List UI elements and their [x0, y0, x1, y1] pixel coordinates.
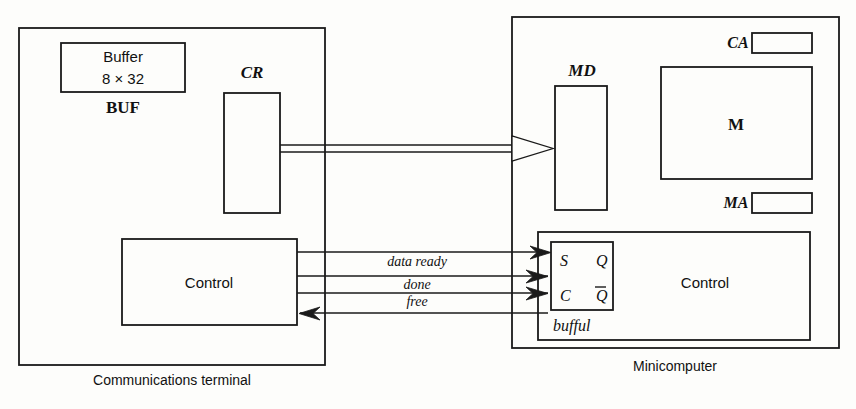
flipflop-terminal-q: Q: [596, 252, 608, 269]
signal-label-free: free: [406, 294, 427, 309]
cr-register-box: [224, 93, 280, 213]
signal-label-done: done: [403, 277, 430, 292]
block-diagram: Buffer 8 × 32 BUF CR Control CA MD M MA …: [0, 0, 856, 409]
ma-register-box: [752, 193, 812, 213]
minicomputer-control-label: Control: [681, 274, 729, 291]
diagram-canvas: Buffer 8 × 32 BUF CR Control CA MD M MA …: [0, 0, 856, 409]
caption-minicomputer: Minicomputer: [633, 358, 717, 374]
buffer-label-line1: Buffer: [103, 48, 143, 65]
data-bus-arrowhead: [512, 136, 553, 161]
flipflop-terminal-s: S: [560, 252, 568, 269]
ca-register-box: [752, 33, 812, 53]
terminal-control-label: Control: [185, 274, 233, 291]
bufful-label: bufful: [553, 317, 591, 335]
flipflop-terminal-qbar: Q: [596, 287, 608, 304]
md-register-box: [555, 86, 607, 210]
flipflop-terminal-c: C: [560, 287, 571, 304]
signal-label-data-ready: data ready: [387, 254, 448, 269]
cr-register-label: CR: [241, 63, 264, 82]
buf-label: BUF: [106, 98, 140, 117]
memory-label: M: [728, 115, 744, 134]
buffer-label-line2: 8 × 32: [102, 70, 144, 87]
ma-register-label: MA: [723, 194, 749, 211]
ca-register-label: CA: [727, 34, 749, 51]
caption-communications-terminal: Communications terminal: [93, 372, 251, 388]
md-register-label: MD: [567, 61, 595, 80]
